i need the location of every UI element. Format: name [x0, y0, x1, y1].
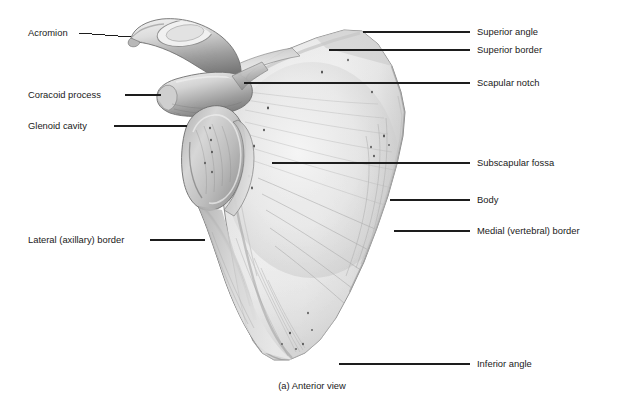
label-body: Body: [477, 194, 499, 205]
label-glenoid-cavity: Glenoid cavity: [28, 120, 87, 131]
label-inferior-angle: Inferior angle: [477, 358, 532, 369]
label-lateral-axillary-border: Lateral (axillary) border: [28, 234, 124, 245]
label-scapular-notch: Scapular notch: [477, 77, 540, 88]
figure-caption: (a) Anterior view: [278, 380, 346, 391]
label-coracoid-process: Coracoid process: [28, 89, 101, 100]
label-medial-vertebral-border: Medial (vertebral) border: [477, 225, 580, 236]
label-subscapular-fossa: Subscapular fossa: [477, 157, 555, 168]
label-acromion: Acromion: [28, 27, 68, 38]
scapula-figure: Acromion Coracoid process Glenoid cavity…: [0, 0, 624, 410]
label-superior-border: Superior border: [477, 44, 542, 55]
label-superior-angle: Superior angle: [477, 26, 538, 37]
